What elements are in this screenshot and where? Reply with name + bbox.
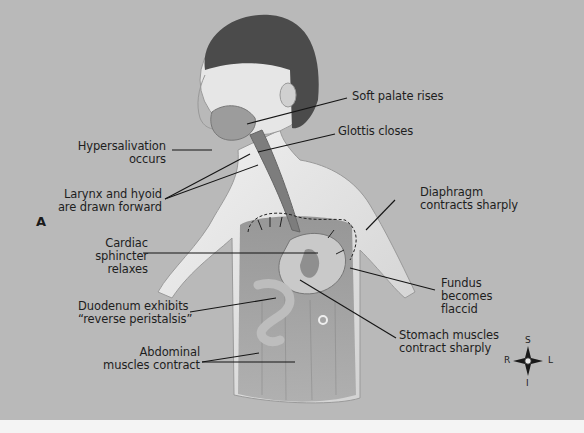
compass-superior: S	[525, 335, 531, 345]
label-glottis: Glottis closes	[338, 125, 413, 138]
label-stomach-muscles: Stomach muscles contract sharply	[399, 329, 499, 355]
label-larynx-hyoid: Larynx and hyoid are drawn forward	[50, 188, 162, 214]
compass-left: L	[548, 355, 553, 365]
label-abdominal-muscles: Abdominal muscles contract	[100, 346, 200, 372]
figure-panel: A Soft palate rises Glottis closes Hyper…	[0, 0, 584, 420]
label-hypersalivation: Hypersalivation occurs	[68, 140, 166, 166]
label-cardiac-sphincter: Cardiac sphincter relaxes	[78, 237, 148, 276]
compass-inferior: I	[526, 378, 529, 388]
orientation-compass	[513, 346, 543, 376]
label-fundus: Fundus becomes flaccid	[441, 277, 492, 316]
label-duodenum: Duodenum exhibits “reverse peristalsis”	[78, 300, 186, 326]
label-diaphragm: Diaphragm contracts sharply	[420, 186, 518, 212]
compass-right: R	[504, 355, 510, 365]
label-soft-palate: Soft palate rises	[352, 90, 443, 103]
panel-letter: A	[36, 214, 46, 229]
